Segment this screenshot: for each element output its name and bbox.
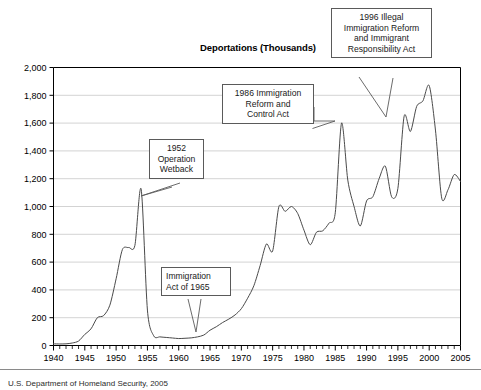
ytick-label-1000: 1,000 [24, 202, 47, 212]
leader-1965 [188, 299, 201, 332]
ytick-label-400: 400 [31, 285, 46, 295]
xtick-label-1995: 1995 [388, 353, 408, 363]
leader-1952 [141, 183, 180, 196]
xtick-label-1950: 1950 [106, 353, 126, 363]
xtick-label-1980: 1980 [294, 353, 314, 363]
callout-1996-act: 1996 IllegalImmigration Reformand Immigr… [331, 8, 432, 58]
callout-1965-act: ImmigrationAct of 1965 [161, 267, 231, 296]
footer-divider [0, 369, 481, 370]
xtick-label-1945: 1945 [75, 353, 95, 363]
callout-1986-act-line-2: Reform and [227, 99, 309, 110]
ytick-label-600: 600 [31, 257, 46, 267]
xtick-label-1955: 1955 [137, 353, 157, 363]
ytick-label-1600: 1,600 [24, 118, 47, 128]
xtick-label-1965: 1965 [200, 353, 220, 363]
ytick-label-200: 200 [31, 313, 46, 323]
callout-1996-act-line-1: 1996 Illegal [336, 12, 427, 23]
callout-1952-operation-wetback-line-2: Operation [154, 154, 199, 165]
ytick-label-1400: 1,400 [24, 146, 47, 156]
chart-plot-area: 02004006008001,0001,2001,4001,6001,8002,… [0, 0, 481, 390]
ytick-label-0: 0 [41, 341, 46, 351]
deportations-chart-figure: Deportations (Thousands) 02004006008001,… [0, 0, 481, 390]
ytick-label-2000: 2,000 [24, 63, 47, 73]
xtick-label-1985: 1985 [325, 353, 345, 363]
xtick-label-2000: 2000 [419, 353, 439, 363]
ytick-label-1800: 1,800 [24, 91, 47, 101]
xtick-label-1970: 1970 [231, 353, 251, 363]
leader-1986 [313, 107, 336, 129]
ytick-label-1200: 1,200 [24, 174, 47, 184]
source-note: U.S. Department of Homeland Security, 20… [8, 379, 308, 388]
xtick-label-1940: 1940 [43, 353, 63, 363]
callout-1952-operation-wetback-line-3: Wetback [154, 164, 199, 175]
callout-1996-act-line-2: Immigration Reform [336, 23, 427, 34]
callout-1986-act-line-1: 1986 Immigration [227, 88, 309, 99]
xtick-label-2005: 2005 [450, 353, 470, 363]
callout-1986-act: 1986 ImmigrationReform andControl Act [222, 84, 314, 124]
xtick-label-1975: 1975 [263, 353, 283, 363]
callout-1986-act-line-3: Control Act [227, 109, 309, 120]
callout-1952-operation-wetback-line-1: 1952 [154, 143, 199, 154]
callout-1996-act-line-3: and Immigrant [336, 33, 427, 44]
callout-1965-act-line-1: Immigration [166, 271, 226, 282]
leader-1996 [359, 77, 393, 117]
xtick-label-1990: 1990 [357, 353, 377, 363]
xtick-label-1960: 1960 [169, 353, 189, 363]
callout-1952-operation-wetback: 1952OperationWetback [149, 139, 204, 179]
ytick-label-800: 800 [31, 230, 46, 240]
callout-1965-act-line-2: Act of 1965 [166, 282, 226, 293]
callout-1996-act-line-4: Responsibility Act [336, 44, 427, 55]
